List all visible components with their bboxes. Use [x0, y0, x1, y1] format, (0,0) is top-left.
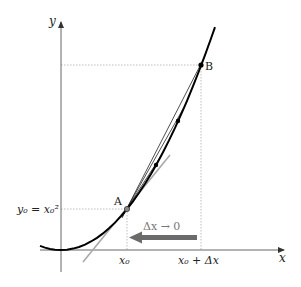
x-axis-label: x — [279, 251, 286, 265]
secant-point-2 — [154, 163, 158, 167]
y0-tick-label: y₀ = x₀² — [16, 203, 59, 216]
secant-point-1 — [176, 119, 180, 123]
arrow-shaft — [140, 235, 197, 240]
delta-x-arrow — [129, 232, 197, 244]
derivative-diagram: y x B A y₀ = x₀² x₀ x₀ + Δx Δx → 0 — [0, 0, 301, 287]
point-B — [198, 62, 203, 67]
delta-x-to-zero-label: Δx → 0 — [143, 220, 180, 233]
secant-lines — [122, 58, 204, 218]
point-A — [124, 206, 129, 211]
secant-line-AB — [122, 58, 204, 218]
point-A-label: A — [113, 195, 123, 208]
parabola-curve — [40, 27, 215, 250]
x0-tick-label: x₀ — [119, 254, 130, 267]
parabola-curve-smooth — [40, 27, 215, 250]
arrow-left-icon — [129, 232, 142, 244]
point-B-label: B — [205, 60, 213, 73]
x0-plus-dx-tick-label: x₀ + Δx — [178, 254, 220, 267]
y-axis-label: y — [48, 14, 56, 28]
secant-line-A-mid1 — [122, 109, 183, 217]
